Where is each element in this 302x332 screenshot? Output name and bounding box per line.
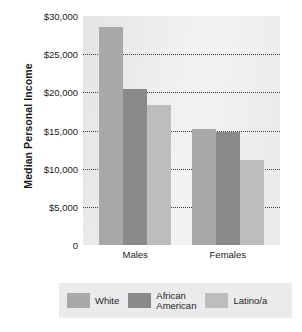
y-tick-label: $30,000 bbox=[28, 11, 78, 22]
bar-african-american-males[interactable] bbox=[123, 89, 147, 245]
bar-white-males[interactable] bbox=[99, 27, 123, 245]
bar-latino/a-females[interactable] bbox=[240, 160, 264, 245]
y-tick-label: $25,000 bbox=[28, 49, 78, 60]
bar-group-males bbox=[99, 16, 171, 245]
legend-item[interactable]: African American bbox=[128, 291, 196, 311]
bar-latino/a-males[interactable] bbox=[147, 105, 171, 245]
legend-label: African American bbox=[156, 291, 196, 311]
median-personal-income-chart: Median Personal Income 0$5,000$10,000$15… bbox=[0, 0, 302, 332]
y-tick-label: $5,000 bbox=[28, 201, 78, 212]
legend-item[interactable]: White bbox=[67, 293, 119, 308]
legend-swatch-icon bbox=[205, 293, 228, 308]
legend-swatch-icon bbox=[128, 293, 151, 308]
legend-label: Latino/a bbox=[233, 296, 267, 306]
legend-item[interactable]: Latino/a bbox=[205, 293, 267, 308]
legend-label: White bbox=[95, 296, 119, 306]
y-tick-label: $15,000 bbox=[28, 125, 78, 136]
x-axis-tick-labels: MalesFemales bbox=[83, 249, 280, 267]
bar-african-american-females[interactable] bbox=[216, 132, 240, 245]
x-tick-label-males: Males bbox=[123, 249, 148, 260]
chart-legend: WhiteAfrican AmericanLatino/a bbox=[59, 283, 292, 318]
legend-swatch-icon bbox=[67, 293, 90, 308]
y-tick-label: $10,000 bbox=[28, 163, 78, 174]
y-tick-label: 0 bbox=[28, 240, 78, 251]
bar-group-females bbox=[192, 16, 264, 245]
y-axis-tick-labels: 0$5,000$10,000$15,000$20,000$25,000$30,0… bbox=[28, 16, 78, 248]
y-tick-label: $20,000 bbox=[28, 87, 78, 98]
x-tick-label-females: Females bbox=[210, 249, 246, 260]
bar-white-females[interactable] bbox=[192, 129, 216, 245]
plot-area bbox=[83, 16, 280, 245]
